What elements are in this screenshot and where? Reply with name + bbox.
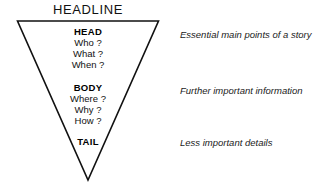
tier-body-label: BODY — [0, 82, 176, 93]
tier-tail: TAIL — [0, 136, 176, 147]
note-body: Further important information — [180, 85, 303, 97]
tier-head-question-1: Who ? — [0, 37, 176, 48]
tier-head-question-3: When ? — [0, 59, 176, 70]
tier-head: HEAD Who ? What ? When ? — [0, 26, 176, 70]
tier-body-question-1: Where ? — [0, 93, 176, 104]
tier-head-question-2: What ? — [0, 48, 176, 59]
tier-body: BODY Where ? Why ? How ? — [0, 82, 176, 126]
tier-tail-label: TAIL — [0, 136, 176, 147]
inverted-pyramid-diagram: HEADLINE HEAD Who ? What ? When ? BODY W… — [0, 0, 332, 187]
tier-head-label: HEAD — [0, 26, 176, 37]
tier-body-question-3: How ? — [0, 115, 176, 126]
note-head: Essential main points of a story — [180, 29, 311, 41]
tier-body-question-2: Why ? — [0, 104, 176, 115]
note-tail: Less important details — [180, 137, 272, 149]
